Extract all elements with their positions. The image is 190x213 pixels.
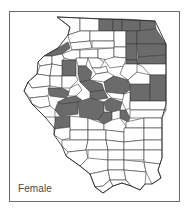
county-shaded bbox=[80, 80, 104, 92]
county-shaded bbox=[137, 29, 166, 44]
county bbox=[144, 118, 162, 128]
county-shaded bbox=[48, 88, 70, 98]
county-shaded bbox=[130, 84, 150, 101]
county bbox=[108, 170, 126, 180]
county bbox=[124, 128, 144, 142]
county-shaded bbox=[126, 60, 137, 64]
county bbox=[86, 140, 108, 150]
county-shaded bbox=[78, 98, 104, 120]
county-shaded bbox=[99, 19, 113, 31]
county bbox=[124, 150, 144, 160]
county bbox=[114, 31, 126, 47]
county bbox=[124, 140, 144, 150]
county bbox=[28, 74, 50, 88]
county bbox=[114, 47, 126, 58]
county bbox=[70, 116, 88, 130]
county bbox=[130, 110, 166, 118]
county bbox=[144, 162, 161, 184]
county bbox=[76, 58, 88, 66]
county bbox=[130, 101, 166, 110]
county bbox=[90, 31, 114, 41]
county-shaded bbox=[62, 60, 76, 76]
county-shaded bbox=[104, 98, 122, 112]
county bbox=[108, 160, 124, 170]
county bbox=[144, 140, 162, 150]
county bbox=[108, 150, 124, 160]
county bbox=[70, 130, 88, 140]
county bbox=[50, 76, 62, 88]
county-shaded bbox=[113, 19, 122, 31]
county bbox=[30, 96, 50, 108]
county bbox=[106, 140, 124, 150]
county-shaded bbox=[150, 75, 166, 101]
county-shaded bbox=[126, 31, 137, 44]
county bbox=[92, 41, 114, 48]
county bbox=[80, 18, 99, 31]
county bbox=[88, 130, 106, 140]
county-layer bbox=[24, 17, 166, 193]
county bbox=[50, 64, 62, 76]
county-shaded bbox=[122, 19, 140, 31]
county-shaded bbox=[55, 102, 78, 116]
county bbox=[144, 150, 162, 164]
county bbox=[88, 58, 104, 68]
illinois-county-map bbox=[0, 0, 190, 213]
map-label: Female bbox=[18, 183, 52, 194]
county bbox=[80, 49, 98, 58]
county-shaded bbox=[78, 66, 92, 82]
county-shaded bbox=[126, 44, 137, 60]
county bbox=[144, 128, 162, 140]
